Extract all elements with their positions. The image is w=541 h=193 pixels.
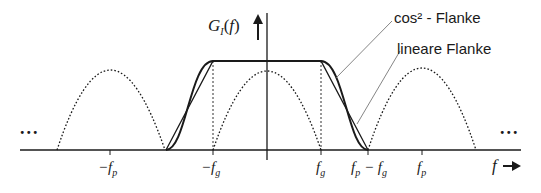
tick-label-fg: fg	[316, 159, 325, 178]
hump-right	[368, 68, 476, 150]
linear-flank-label: lineare Flanke	[397, 40, 491, 57]
tick-label-neg-fp: −fp	[98, 159, 117, 178]
diagram-canvas	[0, 0, 541, 193]
arrow-right-icon	[503, 161, 521, 171]
cos2-flank-label: cos² - Flanke	[394, 9, 481, 26]
raised-cosine-filter-diagram: GI(f) cos² - Flanke lineare Flanke ... .…	[0, 0, 541, 193]
linear-leader-line	[357, 51, 400, 124]
arrow-up-icon	[253, 14, 263, 40]
ellipsis-left: ...	[20, 118, 40, 139]
hump-left	[57, 70, 165, 150]
y-axis-label: GI(f)	[208, 16, 240, 37]
cos2-leader-line	[336, 21, 392, 78]
tick-label-neg-fg: −fg	[201, 159, 220, 178]
x-axis-label: f	[492, 156, 497, 176]
ellipsis-right: ...	[500, 118, 520, 139]
tick-label-fp: fp	[417, 159, 426, 178]
tick-label-fp-minus-fg: fp − fg	[351, 159, 387, 178]
